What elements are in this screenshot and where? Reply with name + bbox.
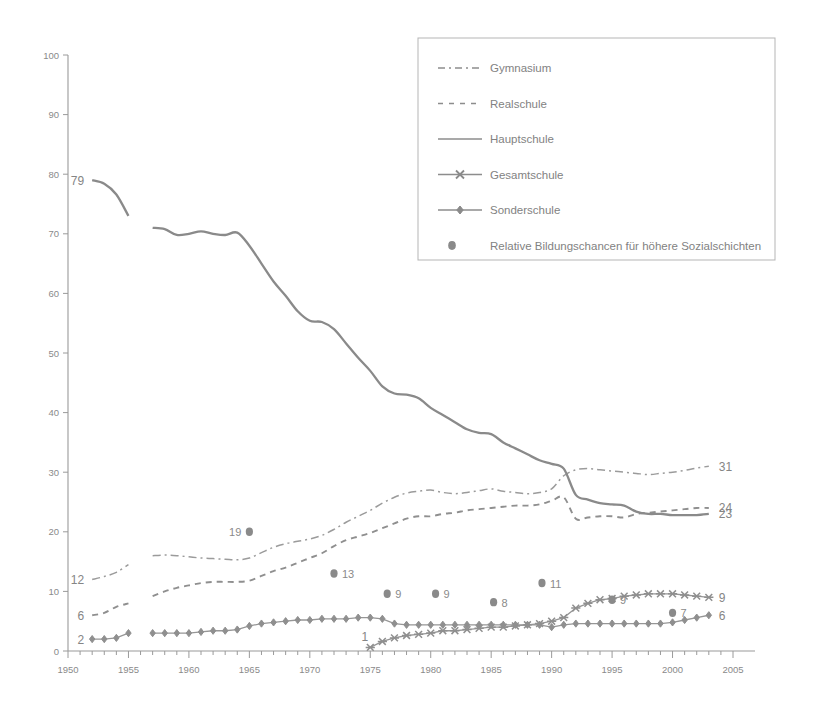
marker-diamond [210,627,215,634]
series-start-label: 6 [77,609,84,623]
y-tick-label: 100 [43,50,59,61]
marker-diamond [319,615,324,622]
marker-diamond [585,620,590,627]
y-tick-label: 70 [48,228,59,239]
marker-diamond [198,628,203,635]
marker-diamond [658,620,663,627]
marker-diamond [392,620,397,627]
annotation-dot-label: 11 [550,578,561,590]
annotation-dot [490,598,497,606]
x-tick-label: 2005 [722,664,743,675]
legend-item-relative[interactable]: Relative Bildungschancen für höhere Sozi… [448,240,761,252]
marker-x [668,590,677,597]
marker-x [390,634,399,641]
legend-item-label: Sonderschule [490,204,560,216]
marker-diamond [694,614,699,621]
marker-diamond [621,620,626,627]
chart-figure: 0102030405060708090100 19501955196019651… [0,0,813,725]
x-tick-label: 1990 [541,664,562,675]
marker-x [426,630,435,637]
series-sonderschule [89,612,711,643]
marker-diamond [380,615,385,622]
legend-item-label: Gymnasium [490,62,551,74]
annotation-dot [608,596,615,604]
x-tick-label: 1955 [118,664,139,675]
marker-x [644,590,653,597]
series-end-label: 31 [719,460,733,474]
legend-item-label: Relative Bildungschancen für höhere Sozi… [490,240,761,252]
x-tick-label: 1965 [239,664,260,675]
series-line [153,466,709,560]
marker-diamond [102,635,107,642]
y-tick-label: 50 [48,348,59,359]
series-start-label: 1 [362,630,369,644]
annotation-dot-label: 7 [681,607,687,619]
legend-item-gesamtschule[interactable]: Gesamtschule [438,169,564,181]
annotation-dot [246,528,253,536]
marker-x [414,631,423,638]
line-chart: 0102030405060708090100 19501955196019651… [0,0,813,725]
y-tick-label: 40 [48,407,59,418]
marker-diamond [452,621,457,628]
annotation-dot-label: 8 [502,597,508,609]
y-tick-label: 90 [48,109,59,120]
series-gymnasium [92,466,709,579]
marker-diamond [114,634,119,641]
y-axis-ticks [63,55,68,651]
series-start-label: 79 [71,174,85,188]
marker-diamond [222,627,227,634]
marker-diamond [404,621,409,628]
chart-legend: GymnasiumRealschuleHauptschuleGesamtschu… [418,38,775,260]
marker-x [583,600,592,607]
marker-diamond [126,630,131,637]
marker-diamond [186,630,191,637]
series-end-label: 9 [719,591,726,605]
series-line [92,603,128,615]
x-tick-label: 1970 [299,664,320,675]
legend-item-label: Gesamtschule [490,169,564,181]
marker-diamond [646,620,651,627]
marker-x [680,592,689,599]
marker-diamond [343,615,348,622]
annotation-dot-label: 9 [620,594,626,606]
marker-diamond [331,615,336,622]
annotation-dot [432,590,439,598]
marker-diamond [428,621,433,628]
series-line [92,180,128,216]
series-end-label: 6 [719,609,726,623]
marker-diamond [609,620,614,627]
marker-diamond [271,619,276,626]
y-tick-label: 20 [48,526,59,537]
legend-item-label: Hauptschule [490,133,554,145]
x-tick-label: 1975 [360,664,381,675]
series-start-label: 12 [71,573,85,587]
x-axis-tick-labels: 1950195519601965197019751980198519901995… [57,664,743,675]
marker-x [595,596,604,603]
series-line [92,633,128,639]
legend-background [418,38,775,260]
marker-diamond [174,630,179,637]
x-tick-label: 1960 [178,664,199,675]
marker-diamond [561,621,566,628]
annotation-dot-label: 9 [444,588,450,600]
annotation-dot [330,569,337,577]
marker-diamond [355,614,360,621]
marker-diamond [670,619,675,626]
marker-x [656,590,665,597]
annotation-points-group: 19139981197 [229,526,687,619]
marker-diamond [416,621,421,628]
marker-diamond [440,621,445,628]
series-start-label: 2 [77,633,84,647]
marker-diamond [573,620,578,627]
x-tick-label: 2000 [662,664,683,675]
marker-x [632,592,641,599]
marker-x [366,644,375,651]
marker-diamond [706,612,711,619]
y-tick-label: 10 [48,586,59,597]
y-axis-tick-labels: 0102030405060708090100 [43,50,59,657]
marker-x [704,594,713,601]
x-tick-label: 1980 [420,664,441,675]
marker-x [692,593,701,600]
series-end-label: 23 [719,507,733,521]
y-tick-label: 60 [48,288,59,299]
